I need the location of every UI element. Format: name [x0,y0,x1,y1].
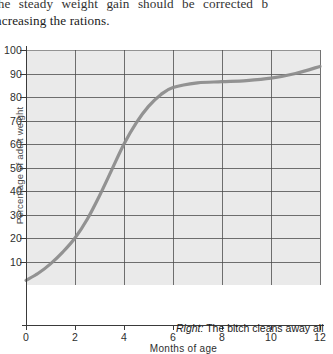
body-text-line-1: the steady weight gain should be correct… [0,0,333,12]
y-axis-tick-mark [20,50,27,51]
gridline-vertical [320,50,321,285]
body-text-line-2: ncreasing the rations. [0,13,333,29]
x-axis-tick-mark [124,325,125,330]
figure-caption: Right: The bitch cleans away all [176,322,333,335]
y-axis-tick-mark [20,262,27,263]
body-paragraph: the steady weight gain should be correct… [0,0,333,28]
x-axis-tick-label: 0 [15,331,37,343]
caption-text: The bitch cleans away all [203,322,323,334]
y-axis-line [26,46,27,329]
y-axis-title: Percentage of adult weight [14,91,25,241]
y-axis-tick-mark [20,74,27,75]
y-axis-tick-label: 10 [0,256,22,268]
x-axis-tick-mark [173,325,174,330]
caption-lead: Right: [176,322,203,334]
growth-curve [26,50,320,285]
x-axis-tick-mark [75,325,76,330]
y-axis-tick-label: 90 [0,68,22,80]
x-axis-title: Months of age [0,343,333,354]
growth-chart-figure: 102030405060708090100 024681012 Percenta… [0,40,333,315]
x-axis-tick-mark [26,325,27,330]
y-axis-tick-label: 100 [0,44,22,56]
x-axis-tick-label: 2 [64,331,86,343]
x-axis-tick-label: 4 [113,331,135,343]
